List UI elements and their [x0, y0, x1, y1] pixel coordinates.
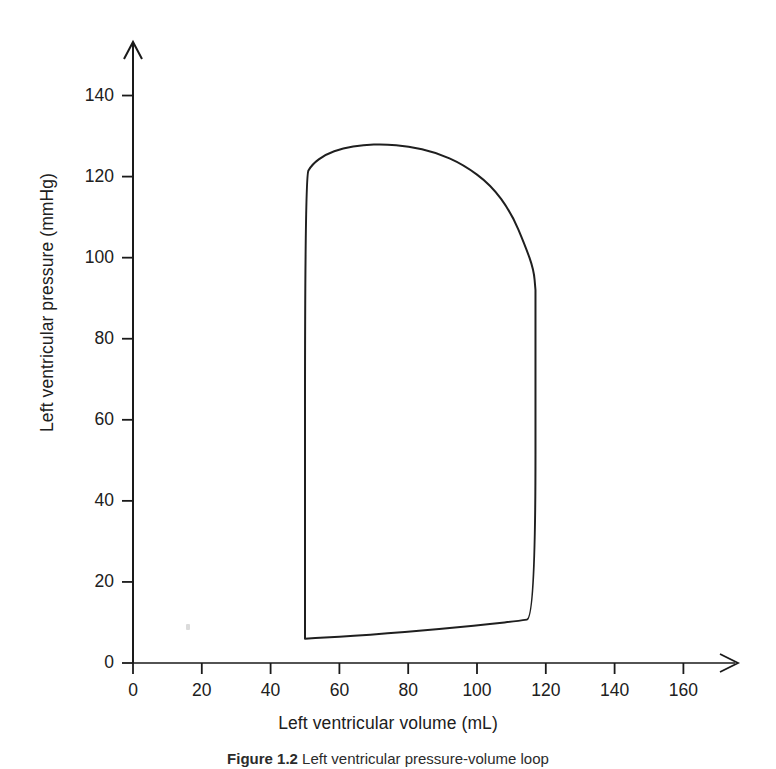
- caption-text: Left ventricular pressure-volume loop: [302, 750, 549, 767]
- x-tick-label: 120: [516, 680, 576, 701]
- axes: [124, 42, 738, 672]
- x-tick-label: 40: [241, 680, 301, 701]
- y-tick-label: 80: [54, 328, 114, 349]
- x-tick-label: 140: [585, 680, 645, 701]
- pv-loop-plot: [0, 0, 776, 769]
- x-tick-label: 100: [447, 680, 507, 701]
- x-tick-label: 160: [653, 680, 713, 701]
- y-tick-label: 20: [54, 571, 114, 592]
- figure-container: Left ventricular pressure (mmHg) Left ve…: [0, 0, 776, 769]
- y-tick-label: 40: [54, 490, 114, 511]
- y-tick-marks: [122, 96, 133, 663]
- y-tick-label: 100: [54, 247, 114, 268]
- x-tick-label: 60: [309, 680, 369, 701]
- x-tick-label: 20: [172, 680, 232, 701]
- y-tick-label: 140: [54, 85, 114, 106]
- pv-loop-curve: [305, 144, 535, 638]
- y-tick-label: 0: [54, 652, 114, 673]
- y-tick-label: 120: [54, 166, 114, 187]
- x-tick-label: 0: [103, 680, 163, 701]
- figure-caption: Figure 1.2 Left ventricular pressure-vol…: [0, 750, 776, 767]
- pv-loop-series: [305, 144, 535, 638]
- x-tick-label: 80: [378, 680, 438, 701]
- y-tick-label: 60: [54, 409, 114, 430]
- caption-number: Figure 1.2: [227, 750, 298, 767]
- x-tick-marks: [133, 663, 683, 674]
